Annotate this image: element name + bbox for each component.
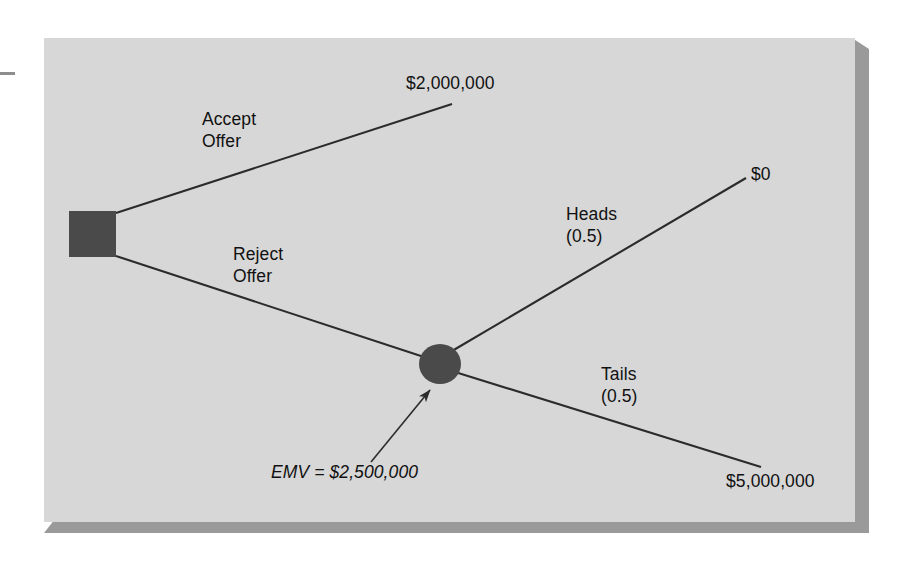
figure-canvas: AcceptOffer $2,000,000 RejectOffer Heads… <box>0 0 917 564</box>
decision-node <box>69 211 116 257</box>
branch-label-accept: AcceptOffer <box>202 108 256 152</box>
branch-label-accept-line2: Offer <box>202 131 241 151</box>
payoff-label-accept: $2,000,000 <box>406 72 495 94</box>
payoff-label-tails: $5,000,000 <box>726 470 815 492</box>
branch-label-heads-line2: (0.5) <box>566 226 602 246</box>
branch-line-accept <box>116 104 452 213</box>
branch-label-tails: Tails(0.5) <box>601 363 637 407</box>
payoff-label-heads: $0 <box>751 163 771 185</box>
emv-annotation-label: EMV = $2,500,000 <box>271 461 418 483</box>
branch-label-tails-line2: (0.5) <box>601 386 637 406</box>
branch-label-reject-line2: Offer <box>233 266 272 286</box>
branch-label-reject: RejectOffer <box>233 243 283 287</box>
branch-label-accept-line1: Accept <box>202 109 256 129</box>
branch-label-reject-line1: Reject <box>233 244 283 264</box>
emv-callout-arrow <box>371 390 430 462</box>
branch-label-heads-line1: Heads <box>566 204 617 224</box>
branch-label-tails-line1: Tails <box>601 364 637 384</box>
chance-node <box>419 344 461 384</box>
branch-label-heads: Heads(0.5) <box>566 203 617 247</box>
